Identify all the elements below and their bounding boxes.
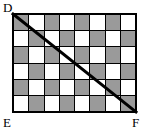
grid-cell-r1-c6	[90, 15, 104, 30]
grid-cell-r4-c5	[75, 64, 89, 79]
grid-cell-r5-c7	[106, 80, 120, 95]
grid-cell-r4-c6	[90, 64, 104, 79]
grid-cell-r3-c4	[60, 47, 74, 62]
grid-cell-r6-c3	[45, 96, 59, 111]
grid-cell-r2-c7	[106, 31, 120, 46]
grid-cell-r6-c2	[29, 96, 43, 111]
grid-cell-r6-c1	[14, 96, 28, 111]
grid-cell-r5-c1	[14, 80, 28, 95]
grid-cell-r5-c5	[75, 80, 89, 95]
grid-container	[12, 13, 137, 113]
checkerboard-grid	[12, 13, 137, 113]
grid-cell-r2-c5	[75, 31, 89, 46]
grid-cell-r3-c7	[106, 47, 120, 62]
grid-cell-r1-c7	[106, 15, 120, 30]
grid-cell-r3-c5	[75, 47, 89, 62]
grid-cell-r1-c8	[121, 15, 135, 30]
grid-cell-r2-c3	[45, 31, 59, 46]
grid-cell-r3-c1	[14, 47, 28, 62]
grid-cell-r2-c1	[14, 31, 28, 46]
grid-cell-r6-c7	[106, 96, 120, 111]
grid-cell-r2-c2	[29, 31, 43, 46]
grid-cell-r4-c8	[121, 64, 135, 79]
grid-cell-r2-c6	[90, 31, 104, 46]
grid-cell-r3-c8	[121, 47, 135, 62]
grid-cell-r1-c2	[29, 15, 43, 30]
grid-cell-r1-c1	[14, 15, 28, 30]
vertex-label-d: D	[3, 1, 12, 14]
vertex-label-f: F	[132, 116, 139, 129]
grid-cell-r1-c3	[45, 15, 59, 30]
grid-cell-r3-c6	[90, 47, 104, 62]
grid-cell-r2-c8	[121, 31, 135, 46]
grid-cell-r5-c6	[90, 80, 104, 95]
grid-cell-r1-c4	[60, 15, 74, 30]
grid-cell-r1-c5	[75, 15, 89, 30]
grid-cell-r5-c8	[121, 80, 135, 95]
grid-cell-r5-c4	[60, 80, 74, 95]
grid-cell-r4-c2	[29, 64, 43, 79]
grid-cell-r4-c4	[60, 64, 74, 79]
grid-cell-r6-c6	[90, 96, 104, 111]
grid-cell-r4-c3	[45, 64, 59, 79]
grid-cell-r6-c8	[121, 96, 135, 111]
vertex-label-e: E	[3, 116, 11, 129]
grid-cell-r4-c1	[14, 64, 28, 79]
grid-cell-r3-c2	[29, 47, 43, 62]
grid-cell-r3-c3	[45, 47, 59, 62]
grid-cell-r4-c7	[106, 64, 120, 79]
geometry-figure: D E F	[0, 0, 147, 134]
grid-cell-r6-c5	[75, 96, 89, 111]
grid-cell-r5-c3	[45, 80, 59, 95]
grid-cell-r2-c4	[60, 31, 74, 46]
grid-cell-r6-c4	[60, 96, 74, 111]
grid-cell-r5-c2	[29, 80, 43, 95]
